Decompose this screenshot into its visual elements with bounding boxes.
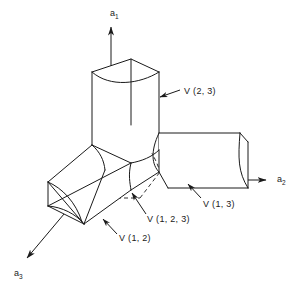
diagram-canvas: V (2, 3) V (1, 3) V (1, 2, 3) V (1, 2) a… — [0, 0, 297, 284]
axis-label-a1-sub: 1 — [115, 13, 119, 20]
region-label-v13: V (1, 3) — [203, 199, 235, 209]
region-label-v123: V (1, 2, 3) — [147, 214, 190, 224]
region-label-v12: V (1, 2) — [119, 233, 151, 243]
leader-line-v12 — [103, 219, 117, 234]
region-label-v23: V (2, 3) — [184, 86, 216, 96]
right-arm-fill — [159, 133, 248, 188]
hidden-edge-back-bottom-right — [140, 172, 160, 198]
junction-front-bottom-edge — [131, 172, 159, 190]
leader-line-v123 — [132, 193, 146, 214]
leader-line-v23 — [160, 90, 180, 97]
axis-label-a3: a3 — [14, 268, 23, 280]
technical-figure: V (2, 3) V (1, 3) V (1, 2, 3) V (1, 2) a… — [0, 0, 297, 284]
right-arm-a2 — [153, 133, 248, 188]
axis-label-a2-sub: 2 — [282, 179, 286, 186]
axis-label-a3-sub: 3 — [19, 273, 23, 280]
axis-label-a2: a2 — [277, 174, 286, 186]
axis-label-a1: a1 — [110, 8, 119, 20]
